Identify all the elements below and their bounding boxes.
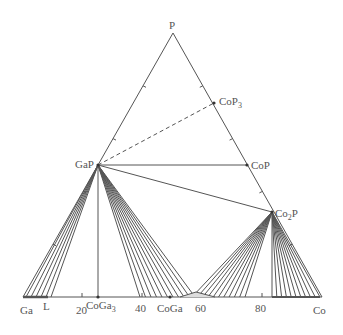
phase-point-cop bbox=[245, 163, 248, 166]
axis-tick-label-20: 20 bbox=[76, 304, 88, 316]
tie-line-co2p-coga-region bbox=[192, 212, 272, 297]
tie-line-gap-liquid bbox=[36, 165, 98, 297]
phase-point-gap bbox=[96, 163, 99, 166]
phase-point-cop3 bbox=[212, 101, 215, 104]
vertex-label-co: Co bbox=[313, 304, 326, 316]
tie-line-gap-liquid bbox=[41, 165, 98, 297]
tick-right-edge bbox=[259, 191, 262, 193]
vertex-label-p: P bbox=[169, 19, 175, 31]
phase-label-gap: GaP bbox=[75, 158, 94, 170]
phase-point-co2p bbox=[270, 210, 273, 213]
axis-tick-label-80: 80 bbox=[255, 302, 267, 314]
tie-line-gap-liquid bbox=[31, 165, 98, 297]
axis-tick-label-60: 60 bbox=[195, 302, 207, 314]
tie-line-co2p-coga-region bbox=[229, 212, 272, 297]
tie-line-co2p-coga-region bbox=[203, 212, 272, 297]
tie-line-co2p-co-region bbox=[272, 212, 310, 297]
tie-line-co2p-coga-region bbox=[240, 212, 272, 297]
tie-line-co2p-coga-region bbox=[219, 212, 273, 297]
tie-line-gap-coga-region bbox=[98, 165, 140, 297]
tie-line-gap-coga-region bbox=[98, 165, 157, 297]
tie-line-gap-coga-region bbox=[98, 165, 195, 297]
tie-line-co2p-coga-region bbox=[213, 212, 272, 297]
liquid-label-l: L bbox=[43, 300, 50, 312]
phase-point-coga bbox=[168, 295, 171, 298]
phase-label-cop: CoP bbox=[251, 159, 270, 171]
tie-line-co2p-coga-region bbox=[197, 212, 272, 297]
tick-right-edge bbox=[230, 139, 233, 141]
phase-label-coga3: CoGa3 bbox=[86, 299, 116, 314]
diagram-lines bbox=[23, 33, 322, 299]
tie-line-gap-coga-region bbox=[98, 165, 190, 297]
phase-label-cop3: CoP3 bbox=[219, 95, 242, 110]
tie-line-gap-coga-region bbox=[98, 165, 168, 297]
ternary-phase-diagram: PGaCoCoP3CoPGaPCo2PCoGa3CoGaL20406080 bbox=[0, 0, 343, 335]
tie-line-gap-liquid bbox=[26, 165, 98, 297]
tie-line-co2p-coga-region bbox=[245, 212, 272, 297]
tie-line-gap-coga-region bbox=[98, 165, 173, 297]
tie-line-gap-liquid bbox=[51, 165, 98, 297]
tie-line-gap-coga-region bbox=[98, 165, 151, 297]
diagram-labels: PGaCoCoP3CoPGaPCo2PCoGa3CoGaL20406080 bbox=[20, 19, 326, 316]
phase-label-coga: CoGa bbox=[157, 302, 183, 314]
vertex-label-ga: Ga bbox=[20, 304, 33, 316]
tie-line-co2p-co-region bbox=[272, 212, 315, 297]
tie-line-gap-coga-region bbox=[98, 165, 162, 297]
axis-tick-label-40: 40 bbox=[135, 302, 147, 314]
tick-left-edge bbox=[113, 139, 116, 141]
tie-line-co2p-coga-region bbox=[224, 212, 272, 297]
tick-left-edge bbox=[143, 86, 146, 88]
tick-right-edge bbox=[200, 86, 203, 88]
tie-line-gap-liquid bbox=[46, 165, 98, 297]
